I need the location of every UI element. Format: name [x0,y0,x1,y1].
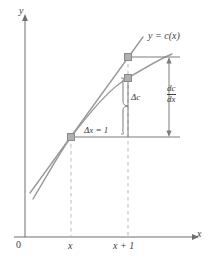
y-axis-label: y [19,6,23,16]
x-tick-label-x-plus-1: x + 1 [113,241,134,251]
delta-c-brace [121,78,128,134]
x-tick-label-x: x [68,241,72,251]
marker-tangent-point-at-x-plus-1 [125,54,132,61]
curve-equation-label: y = c(x) [148,31,180,41]
origin-label: 0 [16,240,21,250]
derivative-numerator: dc [167,84,176,93]
arrowhead-up [166,57,171,64]
marker-tangency-point-at-x [68,134,75,141]
derivative-denominator: dx [167,95,176,104]
delta-x-label: Δx = 1 [84,126,108,135]
arrowhead-down [166,131,171,138]
marginal-cost-figure: y x 0 x x + 1 y = c(x) Δc Δx = 1 dc dx [0,0,210,259]
x-axis-label: x [197,229,201,239]
marker-curve-point-at-x-plus-1 [125,75,132,82]
delta-c-label: Δc [131,93,140,102]
derivative-fraction-label: dc dx [167,84,176,105]
